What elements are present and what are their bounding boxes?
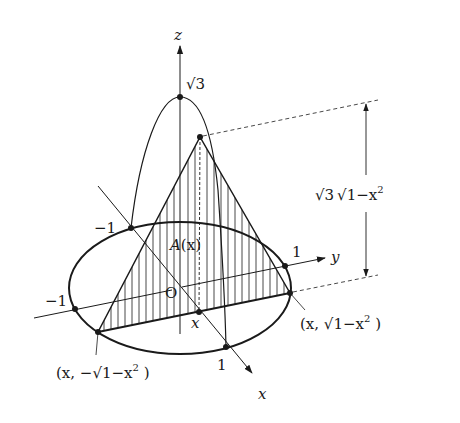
height-sqrt3: √3 [315, 186, 334, 204]
point-apex [197, 134, 203, 140]
point-left-open: (x, −√1−x [56, 364, 133, 382]
point-right-open: (x, √1−x [300, 315, 365, 333]
y-axis [182, 258, 325, 287]
tick-y-neg1: −1 [45, 292, 67, 310]
point-x-pos1 [223, 344, 229, 350]
height-exp: 2 [377, 184, 383, 195]
solid-cross-section-diagram: z y x O √3 −1 1 −1 1 A(x) x √3√1−x2 (x, … [0, 0, 460, 423]
tick-y-pos1: 1 [292, 243, 302, 261]
altitude-dashed [199, 137, 200, 312]
dash-bottom [293, 275, 378, 292]
point-sqrt3 [177, 94, 183, 100]
point-y-pos1 [282, 263, 288, 269]
leader-right [290, 293, 305, 310]
area-label-A: A [168, 236, 181, 254]
section-x-label: x [191, 314, 200, 332]
point-x-neg1 [128, 225, 134, 231]
tick-x-pos1: 1 [217, 356, 227, 374]
area-label-arg: (x) [181, 236, 201, 254]
x-axis-label: x [258, 385, 267, 403]
tick-x-neg1: −1 [94, 219, 116, 237]
area-label: A(x) [168, 236, 201, 254]
point-y-neg1 [72, 306, 78, 312]
z-axis-label: z [173, 26, 182, 44]
tick-z-sqrt3: √3 [186, 75, 205, 93]
dash-top [203, 100, 378, 136]
leader-left [96, 332, 98, 355]
point-base-left [95, 329, 101, 335]
y-axis-label: y [330, 248, 340, 266]
height-label: √3√1−x2 [315, 184, 384, 204]
point-right-close: ) [370, 315, 381, 333]
height-sqrt: √1−x [337, 186, 378, 204]
point-left-label: (x, −√1−x2 ) [56, 362, 150, 382]
origin-label: O [165, 284, 177, 302]
point-left-close: ) [139, 364, 150, 382]
point-right-label: (x, √1−x2 ) [300, 313, 381, 333]
point-base-right [287, 290, 293, 296]
